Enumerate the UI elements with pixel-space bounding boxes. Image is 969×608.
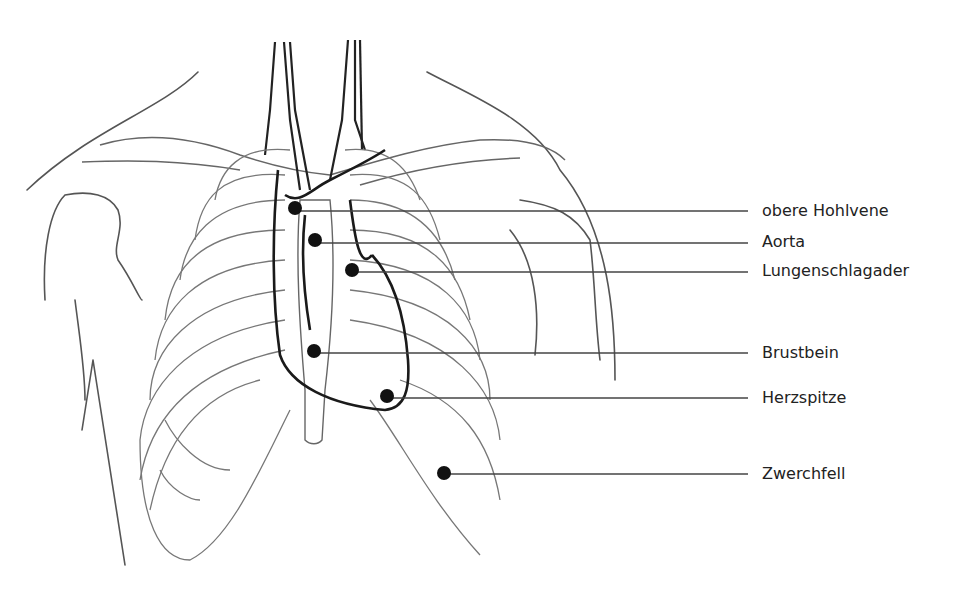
label-obere-hohlvene: obere Hohlvene <box>762 202 889 220</box>
label-brustbein: Brustbein <box>762 344 839 362</box>
label-lungenschlagader: Lungenschlagader <box>762 262 909 280</box>
label-zwerchfell: Zwerchfell <box>762 465 845 483</box>
dot-lungenschlagader <box>345 263 359 277</box>
label-aorta: Aorta <box>762 233 805 251</box>
dot-obere-hohlvene <box>288 201 302 215</box>
body-outline <box>27 72 615 565</box>
neck-vessels <box>265 40 365 190</box>
ribs-left <box>140 149 290 560</box>
dot-zwerchfell <box>437 466 451 480</box>
heart-outline <box>274 150 409 410</box>
leader-lines <box>295 211 748 474</box>
ribs-right <box>345 149 500 555</box>
clavicles <box>82 138 565 185</box>
dot-aorta <box>308 233 322 247</box>
thorax-diagram <box>0 0 969 608</box>
dot-brustbein <box>307 344 321 358</box>
label-herzspitze: Herzspitze <box>762 389 846 407</box>
dot-herzspitze <box>380 389 394 403</box>
